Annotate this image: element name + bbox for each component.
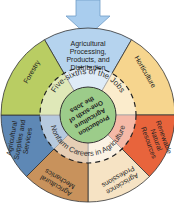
svg-text:Products, and: Products, and: [66, 56, 109, 63]
svg-text:Distribution: Distribution: [70, 64, 105, 71]
svg-text:Processing,: Processing,: [70, 48, 107, 56]
svg-text:Agricultural: Agricultural: [70, 40, 105, 48]
agriculture-careers-wheel: Five-sixths of the Jobs Nonfarm Careers …: [0, 0, 174, 210]
label-ag-processing: Agricultural Processing, Products, and D…: [66, 40, 109, 71]
